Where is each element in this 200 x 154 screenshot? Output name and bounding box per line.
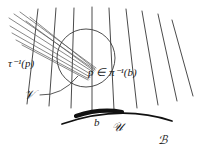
leader-line-to-neighborhood [40, 76, 78, 95]
label-tau-text: τ⁻¹(p) [8, 57, 34, 69]
label-base-point-b-text: b [94, 116, 100, 128]
fiber-line-8 [172, 20, 193, 96]
fiber-line-5 [126, 9, 137, 108]
label-base-space-b-text: ℬ [158, 133, 167, 147]
label-neighborhood-v-text: 𝒱 [24, 87, 35, 102]
label-neighborhood-u: 𝒰 [112, 120, 123, 135]
label-point-in-fiber: p ∈ π⁻¹(b) [88, 66, 137, 79]
label-point-in-fiber-text: p ∈ π⁻¹(b) [88, 66, 137, 78]
label-base-space-b: ℬ [158, 133, 167, 148]
fiber-lines-group [27, 7, 193, 110]
fiber-line-6 [142, 11, 158, 105]
label-tau-preimage: τ⁻¹(p) [8, 57, 34, 70]
label-base-point-b: b [94, 116, 100, 128]
label-neighborhood-v: 𝒱 [24, 87, 35, 103]
fiber-line-4 [109, 8, 114, 110]
label-neighborhood-u-text: 𝒰 [112, 120, 123, 134]
